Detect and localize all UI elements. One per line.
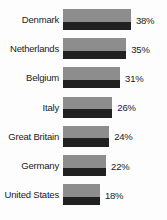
bar-row: Denmark38% [0,9,167,30]
value-label: 31% [125,72,143,83]
bar-chart: Denmark38%Netherlands35%Belgium31%Italy2… [0,0,167,220]
bar-segment-dark [63,109,112,117]
value-label: 24% [114,131,132,142]
bar-row: United States18% [0,184,167,205]
bar [63,126,109,147]
bar-segment-light [63,67,120,80]
category-label: Great Britain [0,131,59,142]
bar [63,184,100,205]
category-label: United States [0,189,59,200]
bar-segment-light [63,184,100,197]
bar-segment-dark [63,22,131,30]
bar-row: Italy26% [0,97,167,118]
bar [63,155,106,176]
bar [63,97,112,118]
bar-segment-dark [63,138,109,146]
value-label: 35% [131,43,149,54]
category-label: Italy [0,102,59,113]
bar-row: Germany22% [0,155,167,176]
value-label: 22% [111,160,129,171]
category-label: Germany [0,160,59,171]
category-label: Netherlands [0,43,59,54]
bar-segment-light [63,126,109,139]
bar-row: Netherlands35% [0,38,167,59]
bar-segment-dark [63,197,100,205]
bar-segment-dark [63,51,126,59]
bar [63,38,126,59]
bar-segment-light [63,97,112,110]
value-label: 18% [105,189,123,200]
bar-segment-dark [63,80,120,88]
bar-row: Belgium31% [0,67,167,88]
bar-segment-light [63,9,131,22]
category-label: Belgium [0,72,59,83]
value-label: 38% [136,14,154,25]
category-label: Denmark [0,14,59,25]
bar-segment-light [63,38,126,51]
bar [63,67,120,88]
bar-segment-dark [63,168,106,176]
bar-segment-light [63,155,106,168]
bar-row: Great Britain24% [0,126,167,147]
value-label: 26% [117,102,135,113]
bar [63,9,131,30]
